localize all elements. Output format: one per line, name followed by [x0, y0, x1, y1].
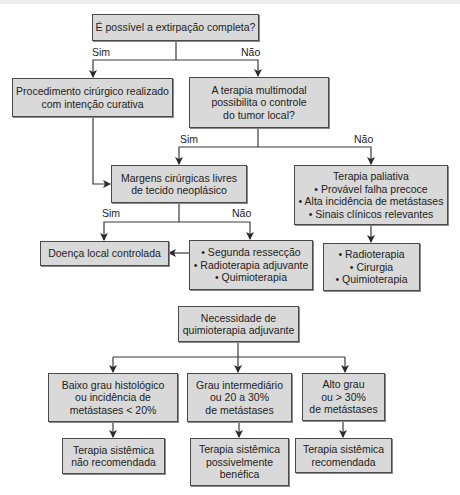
node-text: com intenção curativa — [16, 98, 169, 111]
label-extirpation-yes: Sim — [92, 46, 110, 58]
node-text: ou > 30% — [309, 391, 377, 404]
node-text: É possível a extirpação completa? — [96, 21, 256, 34]
connector-margins-no — [179, 222, 250, 239]
connector-extirpation-no — [176, 60, 258, 76]
node-text: não recomendada — [71, 456, 156, 469]
node-text: • Quimioterapia — [336, 273, 408, 286]
label-extirpation-no: Não — [241, 46, 260, 58]
label-margins-yes: Sim — [102, 207, 120, 219]
node-text: Baixo grau histológico — [62, 379, 165, 392]
node-text: de metástases — [196, 404, 283, 417]
node-text: Terapia sistêmica — [71, 444, 156, 457]
node-text: • Radioterapia adjuvante — [194, 259, 309, 272]
node-text: Alto grau — [309, 378, 377, 391]
node-local-controlled: Doença local controlada — [40, 241, 169, 266]
label-multimodal-no: Não — [354, 133, 373, 145]
node-margins-free: Margens cirúrgicas livres de tecido neop… — [111, 165, 247, 203]
node-not-recommended: Terapia sistêmica não recomendada — [62, 438, 165, 474]
node-text: • Radioterapia — [336, 248, 408, 261]
node-text: Necessidade de — [183, 312, 295, 325]
node-text: • Segunda ressecção — [194, 246, 309, 259]
node-multimodal-question: A terapia multimodal possibilita o contr… — [189, 77, 329, 128]
node-text: de metástases — [309, 403, 377, 416]
node-low-grade: Baixo grau histológico ou incidência de … — [48, 373, 178, 422]
label-margins-no: Não — [232, 207, 251, 219]
node-text: metástases < 20% — [62, 404, 165, 417]
node-text: • Sinais clínicos relevantes — [299, 208, 444, 221]
node-text: quimioterapia adjuvante — [183, 324, 295, 337]
node-text: Terapia sistêmica — [303, 443, 384, 456]
node-text: A terapia multimodal — [211, 84, 306, 97]
node-text: Procedimento cirúrgico realizado — [16, 85, 169, 98]
node-text: Terapia sistêmica — [199, 443, 280, 456]
node-text: • Provável falha precoce — [299, 183, 444, 196]
node-palliative-options: • Radioterapia • Cirurgia • Quimioterapi… — [323, 243, 420, 291]
node-possibly-beneficial: Terapia sistêmica possivelmente benéfica — [190, 438, 289, 486]
node-text: • Quimioterapia — [194, 271, 309, 284]
node-text: do tumor local? — [211, 109, 306, 122]
node-recommended: Terapia sistêmica recomendada — [295, 438, 392, 473]
connector-multimodal-no — [258, 147, 371, 164]
node-text: Grau intermediário — [196, 379, 283, 392]
connector-extirpation-yes — [93, 60, 176, 77]
node-chemo-question: Necessidade de quimioterapia adjuvante — [178, 306, 299, 342]
node-text: • Cirurgia — [336, 261, 408, 274]
node-text: Doença local controlada — [48, 247, 161, 260]
node-text: possibilita o controle — [211, 96, 306, 109]
node-text: possivelmente — [199, 456, 280, 469]
node-text: Margens cirúrgicas livres — [121, 172, 237, 185]
node-second-options: • Segunda ressecção • Radioterapia adjuv… — [189, 240, 313, 290]
node-mid-grade: Grau intermediário ou 20 a 30% de metást… — [187, 373, 292, 422]
node-text: ou 20 a 30% — [196, 391, 283, 404]
node-text: recomendada — [303, 456, 384, 469]
node-extirpation-question: É possível a extirpação completa? — [92, 14, 259, 41]
node-text: benéfica — [199, 468, 280, 481]
node-high-grade: Alto grau ou > 30% de metástases — [302, 373, 385, 421]
node-palliative: Terapia paliativa • Provável falha preco… — [294, 165, 448, 225]
node-text: • Alta incidência de metástases — [299, 195, 444, 208]
connector-surgery-to-margins — [93, 116, 110, 184]
node-surgery-curative: Procedimento cirúrgico realizado com int… — [12, 78, 173, 117]
node-text: ou incidência de — [62, 391, 165, 404]
node-text: Terapia paliativa — [299, 170, 444, 183]
connector-multimodal-yes — [179, 147, 258, 164]
label-multimodal-yes: Sim — [180, 133, 198, 145]
node-text: de tecido neoplásico — [121, 184, 237, 197]
connector-margins-yes — [104, 222, 179, 240]
